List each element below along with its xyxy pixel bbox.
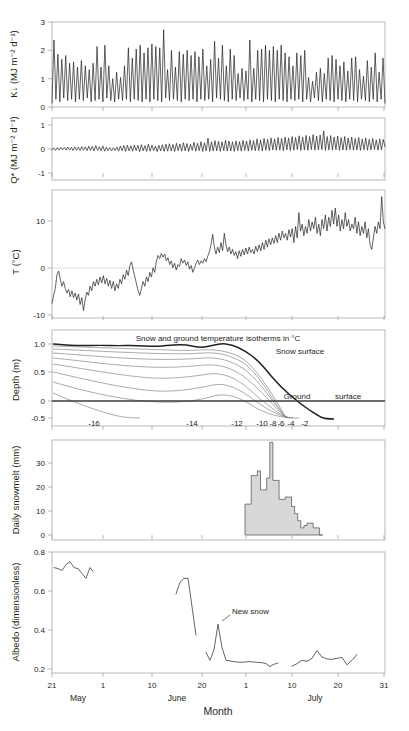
ytick-netradiation-0: -1 bbox=[38, 169, 46, 178]
series-netradiation bbox=[52, 131, 385, 152]
ytick-airtemperature-1: 0 bbox=[41, 264, 46, 273]
isotherm-label--14: -14 bbox=[186, 419, 198, 428]
xaxis-month-may: May bbox=[70, 693, 87, 703]
ylabel-netradiation: Q* (MJ m⁻² d⁻¹) bbox=[8, 116, 19, 184]
ytick-albedo-1: 0.4 bbox=[34, 626, 46, 635]
xtick-label-0: 21 bbox=[48, 681, 57, 690]
xtick-label-5: 10 bbox=[288, 681, 297, 690]
isotherm-label--4: -4 bbox=[287, 419, 295, 428]
multi-panel-chart: 0 1 2 3 K↓ (MJ m⁻² d⁻¹) -1 0 1 Q* (MJ m⁻… bbox=[0, 0, 409, 731]
xtick-label-2: 10 bbox=[148, 681, 157, 690]
ytick-shortwave-1: 1 bbox=[41, 75, 46, 84]
ylabel-airtemperature: T (°C) bbox=[10, 249, 21, 274]
isotherm-label--2: -2 bbox=[301, 419, 309, 428]
ylabel-albedo: Albedo (dimensionless) bbox=[10, 563, 21, 662]
xtick-label-7: 31 bbox=[380, 681, 389, 690]
panel-airtemperature: -10 0 10 T (°C) bbox=[10, 190, 385, 320]
ytick-netradiation-2: 1 bbox=[41, 121, 46, 130]
ylabel-shortwave: K↓ (MJ m⁻² d⁻¹) bbox=[8, 30, 19, 98]
series-albedo bbox=[54, 562, 357, 667]
yaxis-shortwave: 0 1 2 3 bbox=[41, 18, 52, 112]
ytick-depth-3: 1.0 bbox=[34, 340, 46, 349]
xticks-netradiation bbox=[52, 173, 384, 177]
xaxis-month-labels: MayJuneJuly bbox=[70, 693, 323, 703]
ytick-airtemperature-2: 10 bbox=[36, 217, 45, 226]
ytick-snowmelt-1: 10 bbox=[36, 507, 45, 516]
albedo-segment-3 bbox=[292, 651, 357, 667]
yaxis-airtemperature: -10 0 10 bbox=[33, 217, 52, 320]
ytick-albedo-2: 0.6 bbox=[34, 587, 46, 596]
ytick-snowmelt-2: 20 bbox=[36, 483, 45, 492]
isotherm-caption: Snow and ground temperature isotherms in… bbox=[136, 334, 301, 343]
xtick-label-1: 1 bbox=[101, 681, 106, 690]
xaxis-month-july: July bbox=[307, 693, 323, 703]
panel-netradiation: -1 0 1 Q* (MJ m⁻² d⁻¹) bbox=[8, 116, 385, 184]
panel-frame-snowmelt bbox=[52, 440, 385, 540]
ytick-albedo-0: 0.2 bbox=[34, 665, 46, 674]
ylabel-depth: Depth (m) bbox=[10, 359, 21, 401]
albedo-segment-0 bbox=[54, 562, 93, 579]
series-snowmelt bbox=[245, 442, 323, 535]
panel-depth-isotherms: -0.5 0 0.5 1.0 Depth (m) Snow and ground… bbox=[10, 330, 385, 430]
yaxis-albedo: 0.2 0.4 0.6 0.8 bbox=[34, 548, 52, 674]
figure-container: 0 1 2 3 K↓ (MJ m⁻² d⁻¹) -1 0 1 Q* (MJ m⁻… bbox=[0, 0, 409, 731]
xtick-label-6: 20 bbox=[334, 681, 343, 690]
ytick-snowmelt-0: 0 bbox=[41, 531, 46, 540]
label-snow-surface: Snow surface bbox=[276, 347, 325, 356]
ytick-airtemperature-0: -10 bbox=[33, 311, 45, 320]
isotherm-label--16: -16 bbox=[88, 419, 100, 428]
ytick-depth-1: 0 bbox=[41, 397, 46, 406]
panel-frame-albedo bbox=[52, 552, 385, 673]
panel-shortwave: 0 1 2 3 K↓ (MJ m⁻² d⁻¹) bbox=[8, 18, 385, 112]
ytick-shortwave-0: 0 bbox=[41, 103, 46, 112]
xtick-label-3: 20 bbox=[198, 681, 207, 690]
isotherm-label--12: -12 bbox=[231, 419, 243, 428]
ytick-shortwave-2: 2 bbox=[41, 46, 46, 55]
ytick-netradiation-1: 0 bbox=[41, 145, 46, 154]
new-snow-leader-line bbox=[222, 615, 230, 621]
albedo-segment-1 bbox=[176, 578, 196, 635]
isotherm-label--8: -8 bbox=[269, 419, 277, 428]
albedo-segment-2 bbox=[206, 624, 278, 666]
series-airtemperature bbox=[52, 197, 385, 311]
isotherm-label--6: -6 bbox=[277, 419, 285, 428]
isotherm-label--10: -10 bbox=[256, 419, 268, 428]
xticks-depth bbox=[52, 426, 384, 430]
ytick-shortwave-3: 3 bbox=[41, 18, 46, 27]
xaxis: 21110201102031 MayJuneJuly Month bbox=[48, 681, 389, 717]
panel-albedo: 0.2 0.4 0.6 0.8 Albedo (dimensionless) N… bbox=[10, 548, 385, 677]
panel-snowmelt: 0 10 20 30 Daily snowmelt (mm) bbox=[10, 440, 385, 540]
yaxis-netradiation: -1 0 1 bbox=[38, 121, 52, 178]
isotherm-value-labels: -16 -14 -12 -10 -8 -6 -4 -2 bbox=[88, 419, 309, 428]
ytick-snowmelt-3: 30 bbox=[36, 459, 45, 468]
xaxis-tick-labels: 21110201102031 bbox=[48, 681, 389, 690]
label-ground: Ground bbox=[284, 392, 311, 401]
annotation-new-snow: New snow bbox=[232, 607, 269, 616]
xticks-shortwave bbox=[52, 107, 384, 111]
xticks-snowmelt bbox=[52, 535, 384, 539]
xaxis-title: Month bbox=[203, 705, 232, 717]
xaxis-month-june: June bbox=[168, 693, 187, 703]
ytick-depth-0: -0.5 bbox=[31, 414, 45, 423]
yaxis-depth: -0.5 0 0.5 1.0 bbox=[31, 340, 52, 423]
xticks-albedo bbox=[52, 673, 384, 677]
ytick-albedo-3: 0.8 bbox=[34, 548, 46, 557]
series-shortwave bbox=[52, 30, 385, 103]
ytick-depth-2: 0.5 bbox=[34, 368, 46, 377]
xtick-label-4: 1 bbox=[244, 681, 249, 690]
ylabel-snowmelt: Daily snowmelt (mm) bbox=[10, 446, 21, 535]
yaxis-snowmelt: 0 10 20 30 bbox=[36, 459, 52, 540]
isotherm-lines bbox=[53, 346, 299, 418]
label-surface: surface bbox=[335, 392, 362, 401]
